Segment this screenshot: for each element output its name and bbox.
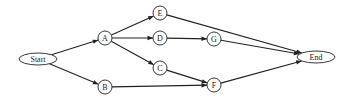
node-end-label: End — [310, 53, 323, 62]
flow-diagram: StartABEDCGFEnd — [0, 0, 350, 101]
node-d: D — [153, 31, 167, 45]
edge-c-to-f — [167, 70, 208, 83]
edge-d-to-g — [167, 38, 207, 39]
edge-a-to-e — [111, 16, 153, 35]
edge-start-to-b — [49, 64, 98, 85]
node-f: F — [207, 78, 221, 92]
edge-f-to-end — [221, 61, 302, 83]
node-b-label: B — [102, 83, 107, 92]
node-g-label: G — [211, 35, 217, 44]
node-g: G — [207, 32, 221, 46]
edge-start-to-a — [51, 40, 98, 55]
node-c-label: C — [157, 64, 162, 73]
node-end: End — [297, 51, 335, 63]
node-a-label: A — [102, 34, 108, 43]
node-start-label: Start — [30, 55, 46, 64]
node-c: C — [153, 61, 167, 75]
node-f-label: F — [212, 81, 217, 90]
node-e: E — [153, 6, 167, 20]
edge-a-to-c — [111, 41, 154, 64]
node-b: B — [98, 80, 112, 94]
edges-layer — [49, 15, 301, 87]
node-a: A — [98, 31, 112, 45]
node-e-label: E — [158, 9, 163, 18]
node-start: Start — [19, 53, 57, 65]
edge-b-to-f — [112, 85, 207, 87]
edge-e-to-end — [167, 15, 302, 53]
node-d-label: D — [157, 34, 163, 43]
edge-g-to-end — [221, 40, 300, 54]
